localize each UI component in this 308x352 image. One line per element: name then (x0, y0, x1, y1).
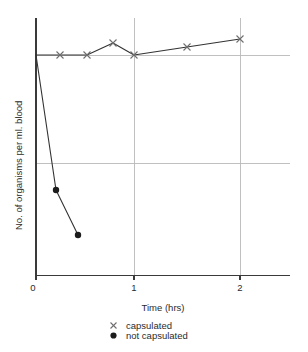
series-capsulated-line (36, 39, 240, 55)
marker-cross-point-3 (110, 40, 117, 47)
legend-cross-icon (111, 323, 117, 329)
gridlines (36, 18, 290, 275)
series-not-capsulated (36, 55, 81, 238)
x-tick-label-0: 0 (30, 282, 35, 293)
x-tick-label-2: 2 (237, 282, 242, 293)
chart-legend: capsulated not capsulated (110, 320, 187, 341)
marker-dot-point-1 (53, 187, 59, 193)
x-tick-label-1: 1 (131, 282, 136, 293)
series-not-capsulated-line (36, 55, 78, 235)
legend-dot-icon (110, 332, 116, 338)
axes-lines (35, 18, 290, 276)
marker-dot-point-2 (75, 232, 81, 238)
x-axis-tick-labels: 0 1 2 (30, 282, 242, 293)
legend-label-not-capsulated: not capsulated (126, 330, 188, 341)
legend-entry-not-capsulated: not capsulated (110, 330, 187, 341)
x-axis-label: Time (hrs) (142, 302, 185, 313)
line-chart-canvas: 0 1 2 (0, 0, 308, 352)
chart-figure: 0 1 2 (0, 0, 308, 352)
y-axis-label: No. of organisms per ml. blood (13, 101, 24, 230)
